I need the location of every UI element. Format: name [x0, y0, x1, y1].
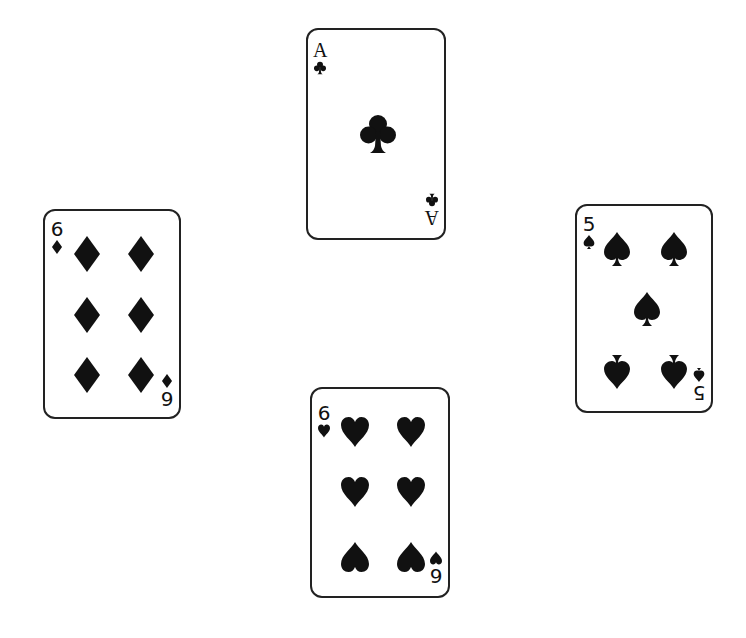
- card-rank: 6: [160, 389, 174, 409]
- spade-icon: [604, 355, 630, 389]
- diamond-icon: [128, 236, 154, 272]
- heart-icon: [397, 542, 425, 572]
- spade-icon: [634, 292, 660, 326]
- heart-icon: [341, 542, 369, 572]
- card-index-bottom-right: A: [425, 193, 439, 228]
- spade-icon: [604, 232, 630, 266]
- heart-icon: [397, 477, 425, 507]
- club-icon: [426, 193, 438, 207]
- card-rank: 6: [317, 403, 331, 423]
- card-rank: 6: [50, 219, 64, 239]
- card-six-of-hearts[interactable]: 6 6: [310, 387, 450, 598]
- heart-icon: [430, 551, 442, 565]
- spade-icon: [661, 355, 687, 389]
- heart-icon: [397, 417, 425, 447]
- card-rank: A: [313, 40, 327, 60]
- card-five-of-spades[interactable]: 5 5: [575, 204, 713, 413]
- club-icon: [314, 61, 326, 75]
- card-rank: 5: [582, 214, 596, 234]
- diamond-icon: [74, 236, 100, 272]
- club-icon: [360, 114, 396, 154]
- card-index-bottom-right: 5: [692, 368, 706, 403]
- heart-icon: [341, 417, 369, 447]
- diamond-icon: [74, 357, 100, 393]
- card-index-top-left: 6: [50, 219, 64, 254]
- card-rank: 6: [429, 566, 443, 586]
- spade-icon: [693, 368, 705, 382]
- card-six-of-diamonds[interactable]: 6 6: [43, 209, 181, 419]
- diamond-icon: [161, 374, 173, 388]
- card-ace-of-clubs[interactable]: A A: [306, 28, 446, 240]
- card-index-top-left: 6: [317, 403, 331, 438]
- heart-icon: [341, 477, 369, 507]
- card-index-bottom-right: 6: [429, 551, 443, 586]
- card-index-bottom-right: 6: [160, 374, 174, 409]
- spade-icon: [583, 235, 595, 249]
- diamond-icon: [74, 297, 100, 333]
- card-index-top-left: A: [313, 40, 327, 75]
- diamond-icon: [128, 357, 154, 393]
- diamond-icon: [51, 240, 63, 254]
- card-rank: A: [425, 208, 439, 228]
- card-index-top-left: 5: [582, 214, 596, 249]
- card-rank: 5: [692, 383, 706, 403]
- heart-icon: [318, 424, 330, 438]
- diamond-icon: [128, 297, 154, 333]
- spade-icon: [661, 232, 687, 266]
